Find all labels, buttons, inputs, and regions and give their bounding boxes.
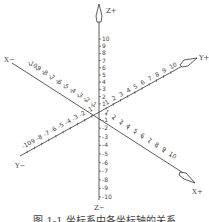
z-plus-tick-label: 7 <box>102 57 106 64</box>
y-plus-tick-label: 4 <box>125 86 132 94</box>
y-plus-tick-label: 2 <box>110 94 117 102</box>
x-plus-tick-label: 10 <box>168 150 178 160</box>
y-plus-tick-label: 8 <box>153 70 160 78</box>
y-plus-tick-label: 7 <box>146 74 153 82</box>
y-minus-label: Y− <box>14 162 26 170</box>
z-minus-tick-label: -3 <box>102 133 108 140</box>
z-plus-tick-label: 6 <box>102 64 106 71</box>
x-plus-tick-label: 7 <box>146 136 153 144</box>
z-plus-tick-label: 3 <box>102 85 106 92</box>
z-plus-tick-label: 5 <box>102 71 106 78</box>
z-minus-tick-label: -6 <box>102 159 108 166</box>
z-minus-tick-label: -4 <box>102 141 108 148</box>
z-minus-tick-label: -1 <box>102 116 108 123</box>
z-minus-tick-label: -10 <box>102 193 112 200</box>
y-plus-tick-label: 10 <box>168 60 178 70</box>
z-plus-tick-label: 8 <box>102 49 106 56</box>
z-plus-arrow-icon <box>96 4 102 22</box>
coordinate-axes-diagram: 12345678910-1-2-3-4-5-6-7-8-9-10-1-2-3-4… <box>0 0 209 222</box>
z-plus-tick-label: 9 <box>102 42 106 49</box>
figure-caption: 图 1-1 坐标系中各坐标轴的关系 <box>0 212 209 222</box>
y-plus-label: Y+ <box>198 54 209 62</box>
z-minus-tick-label: -7 <box>102 167 108 174</box>
x-plus-tick-label: 3 <box>118 117 125 125</box>
z-minus-tick-label: -5 <box>102 150 108 157</box>
x-plus-label: X+ <box>192 188 203 196</box>
y-plus-tick-label: 5 <box>132 82 139 90</box>
z-minus-tick-label: -2 <box>102 124 108 131</box>
x-plus-tick-label: 9 <box>161 145 168 153</box>
x-plus-tick-label: 6 <box>139 131 146 139</box>
z-minus-tick-label: -8 <box>102 176 108 183</box>
x-plus-tick-label: 4 <box>125 122 132 130</box>
y-plus-tick-label: 9 <box>161 66 168 74</box>
z-plus-tick-label: 4 <box>102 78 106 85</box>
z-plus-tick-label: 10 <box>102 35 110 42</box>
z-minus-tick-label: -9 <box>102 184 108 191</box>
y-plus-tick-label: 6 <box>139 78 146 86</box>
x-minus-label: X− <box>4 56 15 64</box>
y-plus-tick-label: 3 <box>118 90 125 98</box>
z-plus-label: Z+ <box>106 7 117 15</box>
y-plus-arrow-icon <box>180 58 197 67</box>
x-plus-tick-label: 2 <box>111 113 118 121</box>
x-plus-tick-label: 8 <box>154 141 161 149</box>
x-plus-arrow-icon <box>179 172 195 183</box>
z-minus-label: Z− <box>94 204 105 212</box>
x-plus-tick-label: 5 <box>132 127 139 135</box>
